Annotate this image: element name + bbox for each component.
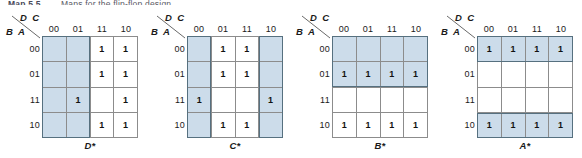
row-header: 10	[308, 113, 330, 139]
kmap-cell[interactable]: 1	[404, 113, 428, 138]
column-header: 11	[525, 24, 549, 34]
column-headers: 00011110	[477, 24, 573, 34]
kmap-grid: 11111111	[477, 36, 573, 138]
kmap-cell[interactable]: 1	[188, 88, 212, 113]
row-header: 11	[163, 87, 185, 113]
kmap-cell[interactable]: 1	[236, 37, 260, 62]
row-header: 01	[308, 62, 330, 88]
row-header: 00	[163, 36, 185, 62]
kmap-cell[interactable]	[67, 62, 91, 87]
column-header: 00	[42, 24, 66, 34]
kmap-cell[interactable]	[549, 88, 573, 113]
kmap-cell[interactable]: 1	[526, 37, 550, 62]
row-header: 10	[18, 113, 40, 139]
row-headers: 00011110	[453, 36, 475, 138]
kmap-cell[interactable]	[188, 62, 212, 87]
kmap-cell[interactable]: 1	[91, 37, 115, 62]
column-headers: 00011110	[187, 24, 283, 34]
row-headers: 00011110	[18, 36, 40, 138]
kmap-cell[interactable]: 1	[381, 113, 405, 138]
kmap-grid: 11111111	[332, 36, 428, 138]
kmap-cell[interactable]	[357, 37, 381, 62]
kmap-cell[interactable]	[549, 62, 573, 87]
kmap-cell[interactable]	[478, 88, 502, 113]
kmap-cell[interactable]	[478, 62, 502, 87]
kmap-cell[interactable]: 1	[114, 62, 138, 87]
row-header: 11	[18, 87, 40, 113]
row-header: 00	[308, 36, 330, 62]
kmap-cell[interactable]: 1	[114, 113, 138, 138]
kmap-cell[interactable]	[404, 88, 428, 113]
kmap-cell[interactable]: 1	[549, 113, 573, 138]
kmap-cell[interactable]	[67, 37, 91, 62]
column-axis-label: D C	[20, 12, 41, 23]
column-header: 01	[501, 24, 525, 34]
kmap-cell[interactable]	[212, 88, 236, 113]
kmap-cell[interactable]: 1	[91, 113, 115, 138]
kmap-cell[interactable]: 1	[236, 113, 260, 138]
column-headers: 00011110	[42, 24, 138, 34]
kmap-cell[interactable]: 1	[91, 62, 115, 87]
kmap-cell[interactable]: 1	[114, 88, 138, 113]
kmap-cell[interactable]: 1	[212, 37, 236, 62]
kmap-cell[interactable]: 1	[478, 37, 502, 62]
kmap-cell[interactable]: 1	[212, 62, 236, 87]
column-header: 10	[549, 24, 573, 34]
kmap-cell[interactable]	[381, 37, 405, 62]
kmap-cell[interactable]	[333, 88, 357, 113]
kmap-cell[interactable]	[259, 37, 283, 62]
kmap-cell[interactable]	[526, 62, 550, 87]
column-header: 11	[235, 24, 259, 34]
column-header: 10	[404, 24, 428, 34]
kmap-cell[interactable]: 1	[212, 113, 236, 138]
kmap-cell[interactable]	[43, 113, 67, 138]
kmap-cell[interactable]: 1	[114, 37, 138, 62]
column-header: 11	[90, 24, 114, 34]
kmap-cell[interactable]	[259, 113, 283, 138]
kmap-cell[interactable]	[259, 62, 283, 87]
kmap-cell[interactable]: 1	[67, 88, 91, 113]
kmap-caption: C*	[187, 140, 283, 151]
kmap-cell[interactable]	[357, 88, 381, 113]
kmap-astar: D CB A000111100001111011111111A*	[437, 0, 582, 158]
kmap-bstar: D CB A000111100001111011111111B*	[292, 0, 437, 158]
row-header: 01	[453, 62, 475, 88]
kmap-cell[interactable]	[43, 62, 67, 87]
kmap-cell[interactable]	[404, 37, 428, 62]
kmap-cell[interactable]: 1	[259, 88, 283, 113]
kmap-cell[interactable]	[333, 37, 357, 62]
kmap-cell[interactable]	[381, 88, 405, 113]
kmap-dstar: D CB A000111100001111011111111D*	[2, 0, 147, 158]
kmap-cell[interactable]	[502, 88, 526, 113]
column-axis-label: D C	[165, 12, 186, 23]
kmap-cell[interactable]	[43, 88, 67, 113]
kmap-cell[interactable]	[236, 88, 260, 113]
column-header: 00	[187, 24, 211, 34]
kmap-cell[interactable]: 1	[404, 62, 428, 87]
kmap-grid: 11111111	[42, 36, 138, 138]
kmap-cell[interactable]	[67, 113, 91, 138]
row-header: 01	[18, 62, 40, 88]
column-header: 00	[332, 24, 356, 34]
kmap-cell[interactable]: 1	[333, 113, 357, 138]
kmap-cell[interactable]	[91, 88, 115, 113]
kmap-cell[interactable]: 1	[381, 62, 405, 87]
column-axis-label: D C	[310, 12, 331, 23]
kmap-cell[interactable]	[188, 113, 212, 138]
kmap-cell[interactable]: 1	[502, 113, 526, 138]
kmap-cell[interactable]	[502, 62, 526, 87]
kmap-cell[interactable]: 1	[502, 37, 526, 62]
kmap-cell[interactable]	[188, 37, 212, 62]
kmap-caption: D*	[42, 140, 138, 151]
kmap-cell[interactable]: 1	[236, 62, 260, 87]
kmap-cell[interactable]: 1	[357, 62, 381, 87]
kmap-cell[interactable]	[526, 88, 550, 113]
kmap-cell[interactable]: 1	[357, 113, 381, 138]
kmap-cell[interactable]: 1	[333, 62, 357, 87]
kmap-cell[interactable]: 1	[549, 37, 573, 62]
column-axis-label: D C	[455, 12, 476, 23]
kmap-cell[interactable]	[43, 37, 67, 62]
kmap-cell[interactable]: 1	[526, 113, 550, 138]
column-header: 00	[477, 24, 501, 34]
kmap-cell[interactable]: 1	[478, 113, 502, 138]
